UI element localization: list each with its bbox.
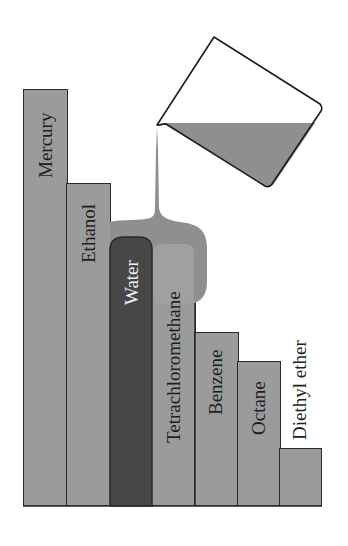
label-tetrachloromethane: Tetrachloromethane [164,291,183,443]
label-ethanol: Ethanol [79,204,98,263]
pour-overlay [0,0,348,546]
label-water: Water [122,260,141,305]
label-diethyl-ether: Diethyl ether [290,340,309,440]
label-mercury: Mercury [36,113,55,178]
label-octane: Octane [249,381,268,435]
density-diagram: Mercury Ethanol Water Tetrachloromethane… [0,0,348,546]
beaker-pouring-icon [157,37,322,187]
label-benzene: Benzene [206,350,225,415]
